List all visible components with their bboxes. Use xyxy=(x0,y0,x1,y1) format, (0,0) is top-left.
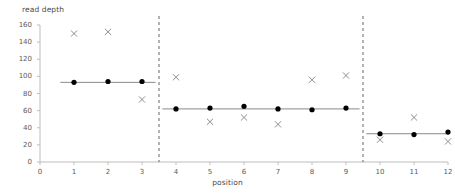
mean-point-marker xyxy=(207,105,212,110)
y-tick-label: 120 xyxy=(10,55,32,63)
mean-point-marker xyxy=(275,106,280,111)
mean-point-marker xyxy=(139,79,144,84)
observed-point-marker xyxy=(207,119,213,125)
x-tick-label: 11 xyxy=(410,168,419,176)
x-tick-label: 12 xyxy=(444,168,453,176)
x-tick-label: 9 xyxy=(344,168,348,176)
y-tick-label: 40 xyxy=(10,124,32,132)
observed-point-marker xyxy=(377,137,383,143)
x-tick-label: 3 xyxy=(140,168,144,176)
read-depth-chart: read depth position 02040608010012014016… xyxy=(0,0,455,194)
mean-point-marker xyxy=(445,129,450,134)
observed-point-marker xyxy=(71,30,77,36)
observed-point-marker xyxy=(445,138,451,144)
x-tick-label: 1 xyxy=(72,168,76,176)
observed-point-marker xyxy=(411,114,417,120)
y-tick-label: 140 xyxy=(10,38,32,46)
x-tick-label: 4 xyxy=(174,168,178,176)
x-tick-label: 5 xyxy=(208,168,212,176)
observed-point-marker xyxy=(343,72,349,78)
observed-point-marker xyxy=(241,114,247,120)
mean-point-marker xyxy=(343,105,348,110)
observed-point-marker xyxy=(105,29,111,35)
plot-area xyxy=(0,0,455,194)
mean-point-marker xyxy=(241,104,246,109)
y-tick-label: 60 xyxy=(10,107,32,115)
y-tick-label: 80 xyxy=(10,90,32,98)
x-tick-label: 0 xyxy=(38,168,42,176)
x-tick-label: 10 xyxy=(376,168,385,176)
observed-point-marker xyxy=(309,77,315,83)
observed-point-marker xyxy=(173,74,179,80)
x-tick-label: 6 xyxy=(242,168,246,176)
x-tick-label: 8 xyxy=(310,168,314,176)
mean-point-marker xyxy=(411,132,416,137)
observed-point-marker xyxy=(139,96,145,102)
mean-point-marker xyxy=(377,131,382,136)
y-tick-label: 160 xyxy=(10,21,32,29)
mean-point-marker xyxy=(309,107,314,112)
y-tick-label: 0 xyxy=(10,158,32,166)
x-tick-label: 2 xyxy=(106,168,110,176)
x-tick-label: 7 xyxy=(276,168,280,176)
mean-point-marker xyxy=(71,80,76,85)
y-tick-label: 20 xyxy=(10,141,32,149)
y-tick-label: 100 xyxy=(10,72,32,80)
mean-point-marker xyxy=(173,106,178,111)
observed-point-marker xyxy=(275,121,281,127)
mean-point-marker xyxy=(105,79,110,84)
